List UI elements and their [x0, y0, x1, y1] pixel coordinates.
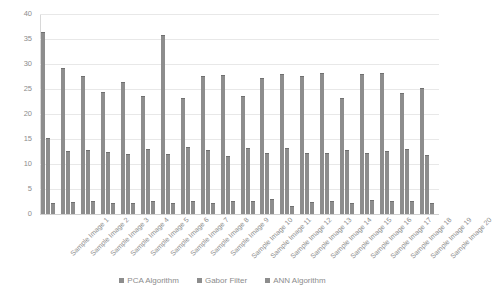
bar-group — [399, 14, 419, 214]
x-axis-labels: Sample Image 1Sample Image 2Sample Image… — [40, 216, 439, 274]
bar — [265, 153, 269, 215]
y-axis-tick-label: 35 — [24, 35, 32, 43]
bar-group — [180, 14, 200, 214]
bar-group — [259, 14, 279, 214]
bar — [66, 151, 70, 214]
bar — [186, 147, 190, 215]
bar-group — [60, 14, 80, 214]
y-axis-tick-label: 40 — [24, 10, 32, 18]
legend-item[interactable]: Gabor Filter — [197, 276, 247, 285]
bar-group — [40, 14, 60, 214]
y-axis-tick-label: 10 — [24, 160, 32, 168]
bar-group — [100, 14, 120, 214]
bar — [181, 98, 185, 215]
gridline — [40, 214, 439, 215]
bar — [310, 202, 314, 214]
bar — [91, 201, 95, 215]
bar — [325, 153, 329, 215]
bar — [285, 148, 289, 215]
bar — [226, 156, 230, 215]
y-axis-tick-label: 15 — [24, 135, 32, 143]
bar — [425, 155, 429, 215]
y-axis-tick-label: 0 — [28, 210, 32, 218]
bar — [340, 98, 344, 214]
legend-item[interactable]: PCA Algorithm — [119, 276, 179, 285]
bar — [370, 200, 374, 214]
bar-group — [220, 14, 240, 214]
bar — [405, 149, 409, 214]
bar-group — [319, 14, 339, 214]
bar — [86, 150, 90, 214]
bar — [161, 35, 165, 214]
plot-area — [40, 14, 439, 214]
bar — [231, 201, 235, 215]
bar — [61, 68, 65, 215]
bar — [71, 202, 75, 215]
y-axis-labels: 0510152025303540 — [0, 0, 36, 297]
bar — [221, 75, 225, 214]
bar — [121, 82, 125, 215]
bar — [201, 76, 205, 214]
legend-label: ANN Algorithm — [273, 276, 325, 285]
bar-group — [80, 14, 100, 214]
bar-group — [160, 14, 180, 214]
bar-group — [140, 14, 160, 214]
bar — [206, 150, 210, 214]
bar — [380, 73, 384, 215]
bar — [305, 153, 309, 214]
bar — [260, 78, 264, 214]
bar — [420, 88, 424, 215]
bar — [211, 203, 215, 214]
bar — [345, 150, 349, 214]
legend-swatch-icon — [119, 278, 124, 283]
bar — [141, 96, 145, 215]
bar-group — [120, 14, 140, 214]
chart-legend: PCA AlgorithmGabor FilterANN Algorithm — [0, 276, 445, 285]
bar — [191, 201, 195, 214]
bar — [360, 74, 364, 215]
bar — [385, 151, 389, 215]
bar — [270, 199, 274, 214]
bar — [111, 203, 115, 215]
bar — [101, 92, 105, 214]
bar-group — [279, 14, 299, 214]
y-axis-tick-label: 25 — [24, 85, 32, 93]
bar-groups — [40, 14, 439, 214]
bar — [430, 203, 434, 215]
bar-group — [359, 14, 379, 214]
bar-group — [379, 14, 399, 214]
legend-swatch-icon — [197, 278, 202, 283]
bar — [146, 149, 150, 215]
y-axis-tick-label: 20 — [24, 110, 32, 118]
bar — [51, 203, 55, 215]
bar — [390, 201, 394, 214]
legend-label: PCA Algorithm — [127, 276, 179, 285]
bar — [290, 206, 294, 214]
bar — [300, 76, 304, 214]
bar — [410, 201, 414, 214]
legend-swatch-icon — [265, 278, 270, 283]
bar — [106, 152, 110, 214]
bar-group — [419, 14, 439, 214]
bar — [365, 153, 369, 215]
y-axis-tick-label: 5 — [28, 185, 32, 193]
bar-group — [299, 14, 319, 214]
y-axis-tick-label: 30 — [24, 60, 32, 68]
bar-group — [240, 14, 260, 214]
bar — [320, 73, 324, 215]
bar — [350, 203, 354, 214]
bar — [251, 201, 255, 214]
bar — [46, 138, 50, 215]
bar — [246, 148, 250, 214]
bar — [166, 154, 170, 215]
bar — [241, 96, 245, 215]
bar-group — [339, 14, 359, 214]
legend-item[interactable]: ANN Algorithm — [265, 276, 325, 285]
bar — [81, 76, 85, 215]
bar — [171, 203, 175, 214]
bar-group — [200, 14, 220, 214]
legend-label: Gabor Filter — [205, 276, 247, 285]
bar — [400, 93, 404, 215]
bar — [330, 201, 334, 214]
